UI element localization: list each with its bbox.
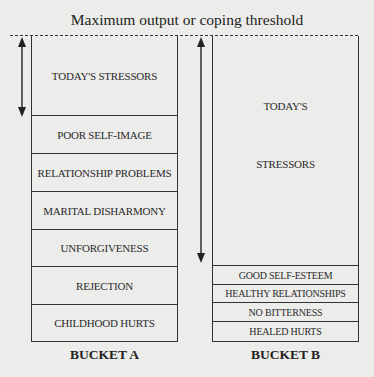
bucket-b: TODAY'S STRESSORS GOOD SELF-ESTEEM HEALT…	[212, 36, 359, 342]
segment-good-self-esteem: GOOD SELF-ESTEEM	[213, 265, 358, 284]
segment-stressors-label: STRESSORS	[213, 154, 358, 174]
segment-childhood-hurts: CHILDHOOD HURTS	[32, 304, 177, 341]
double-arrow-icon-b	[195, 36, 207, 264]
segment-healthy-relationships: HEALTHY RELATIONSHIPS	[213, 284, 358, 302]
bucket-a: TODAY'S STRESSORS POOR SELF-IMAGE RELATI…	[31, 36, 178, 342]
segment-unforgiveness: UNFORGIVENESS	[32, 229, 177, 266]
segment-rejection: REJECTION	[32, 266, 177, 304]
segment-todays-stressors: TODAY'S STRESSORS	[32, 36, 177, 115]
double-arrow-icon-a	[16, 36, 28, 118]
segment-relationship-problems: RELATIONSHIP PROBLEMS	[32, 153, 177, 191]
bucket-b-label: BUCKET B	[212, 347, 359, 363]
segment-todays-label: TODAY'S	[213, 96, 358, 116]
bucket-a-label: BUCKET A	[31, 347, 178, 363]
threshold-title: Maximum output or coping threshold	[0, 11, 374, 29]
segment-poor-self-image: POOR SELF-IMAGE	[32, 115, 177, 153]
segment-healed-hurts: HEALED HURTS	[213, 321, 358, 341]
segment-marital-disharmony: MARITAL DISHARMONY	[32, 191, 177, 229]
segment-no-bitterness: NO BITTERNESS	[213, 302, 358, 321]
